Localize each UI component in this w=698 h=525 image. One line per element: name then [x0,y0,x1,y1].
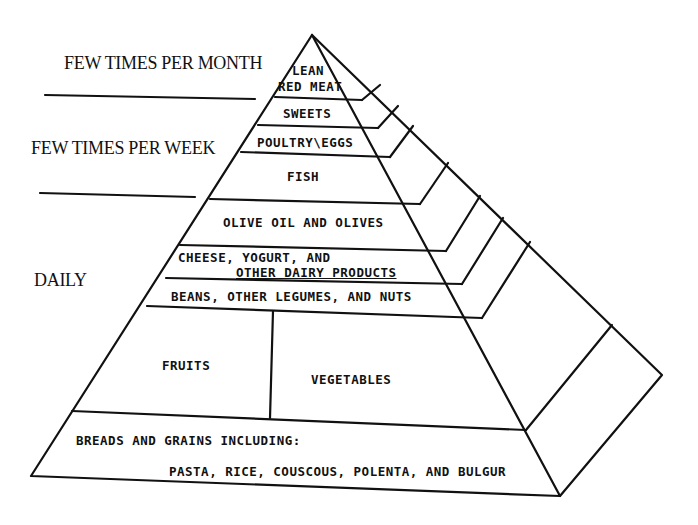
tier-breads-line2: PASTA, RICE, COUSCOUS, POLENTA, AND BULG… [169,464,506,479]
tier-lean-red-meat-line2: RED MEAT [278,79,342,94]
tier-dairy-line1: CHEESE, YOGURT, AND [178,250,331,265]
tier-sweets: SWEETS [283,106,331,121]
divider-week-daily [40,193,195,197]
tier-poultry-eggs: POULTRY\EGGS [257,135,353,150]
tier-lean-red-meat-line1: LEAN [292,63,324,78]
frequency-label-week: FEW TIMES PER WEEK [31,138,215,159]
tier-beans: BEANS, OTHER LEGUMES, AND NUTS [171,289,412,304]
tier-fruits: FRUITS [162,358,210,373]
frequency-label-month: FEW TIMES PER MONTH [64,53,262,74]
tier-fish: FISH [287,169,319,184]
tier-breads-line1: BREADS AND GRAINS INCLUDING: [76,433,301,448]
food-pyramid-diagram: FEW TIMES PER MONTH FEW TIMES PER WEEK D… [0,0,698,525]
frequency-label-daily: DAILY [34,270,87,291]
tier-olive-oil: OLIVE OIL AND OLIVES [223,215,384,230]
tier-vegetables: VEGETABLES [311,372,391,387]
divider-month-week [45,95,255,99]
tier-dairy-line2: OTHER DAIRY PRODUCTS [236,265,397,280]
